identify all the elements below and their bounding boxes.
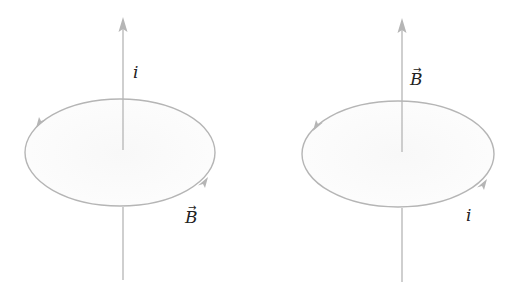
left-loop-label: → B [185,209,198,226]
right-axis-label: → B [410,71,423,88]
vector-arrow-icon: → [188,203,196,213]
right-loop-label-text: i [466,205,471,225]
left-panel [25,17,215,280]
left-axis-label: i [133,64,138,81]
diagram-canvas [0,0,516,295]
left-axis-label-text: i [133,62,138,82]
right-panel [302,18,494,282]
right-loop-label: i [466,207,471,224]
vector-arrow-icon: → [413,65,421,75]
